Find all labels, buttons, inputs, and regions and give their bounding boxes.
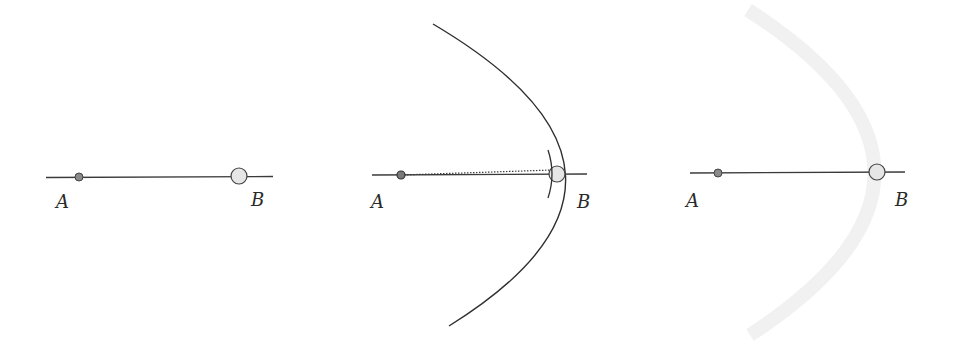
label-a: A (369, 191, 384, 212)
panel-3: A B (684, 10, 908, 335)
label-a: A (684, 190, 699, 211)
panel-2: A B (369, 24, 590, 326)
panel-1: A B (46, 168, 273, 212)
point-b-circle (231, 168, 247, 184)
point-a-dot (714, 169, 722, 177)
label-b: B (894, 189, 908, 210)
diagram-canvas: A B A B A B (0, 0, 953, 343)
label-b: B (576, 191, 590, 212)
point-b-circle (869, 164, 885, 180)
label-b: B (250, 189, 264, 210)
point-a-dot (397, 171, 405, 179)
label-a: A (54, 191, 69, 212)
point-a-dot (75, 173, 83, 181)
